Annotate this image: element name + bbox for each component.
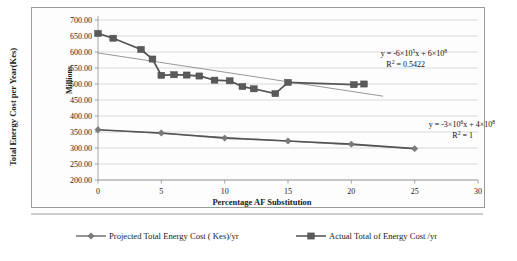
equation-annotations: y = -6×105x + 6×108R2 = 0.5422y = -3×106… (381, 48, 496, 140)
data-point-marker (285, 138, 291, 144)
y-axis-title: Total Energy Cost per Year(Kes) (8, 48, 18, 166)
y-tick-label: 600.00 (70, 48, 92, 57)
data-point-marker (183, 72, 190, 78)
y-tick-label: 400.00 (70, 112, 92, 121)
data-point-marker (272, 91, 279, 97)
data-point-marker (95, 30, 102, 36)
y-tick-label: 350.00 (70, 128, 92, 137)
data-point-marker (350, 82, 357, 88)
x-axis-title: Percentage AF Substitution (212, 197, 311, 207)
x-tick-label: 20 (347, 187, 355, 196)
grid-lines (98, 20, 478, 180)
x-tick-label: 25 (411, 187, 419, 196)
data-point-marker (110, 35, 117, 41)
data-point-marker (361, 81, 368, 87)
y-axis-tick-labels: 200.00250.00300.00350.00400.00450.00500.… (70, 16, 92, 185)
data-point-marker (158, 72, 165, 78)
data-point-marker (196, 73, 203, 79)
legend-marker-square (308, 233, 315, 239)
y-tick-label: 700.00 (70, 16, 92, 25)
legend-label[interactable]: Projected Total Energy Cost ( Kes)/yr (109, 231, 239, 241)
y-tick-label: 200.00 (70, 176, 92, 185)
x-tick-label: 30 (474, 187, 482, 196)
trendline-equation: y = -6×105x + 6×108 (381, 48, 448, 58)
y-tick-label: 250.00 (70, 160, 92, 169)
chart-canvas: 200.00250.00300.00350.00400.00450.00500.… (0, 0, 517, 261)
data-point-marker (158, 130, 164, 136)
x-tick-label: 0 (96, 187, 100, 196)
trendline-equation: y = -3×106x + 4×108 (429, 119, 496, 129)
data-point-marker (211, 77, 218, 83)
y-tick-label: 450.00 (70, 96, 92, 105)
series-line (98, 130, 415, 149)
series-line (98, 33, 364, 93)
trendlines (98, 53, 415, 149)
data-point-marker (226, 78, 233, 84)
data-series (95, 30, 418, 152)
x-tick-label: 10 (221, 187, 229, 196)
trendline-r-squared: R2 = 0.5422 (386, 59, 425, 69)
x-axis-tick-labels: 051015202530 (96, 187, 482, 196)
data-point-marker (411, 145, 417, 151)
chart-figure: 200.00250.00300.00350.00400.00450.00500.… (0, 0, 517, 261)
data-point-marker (348, 141, 354, 147)
y-tick-label: 300.00 (70, 144, 92, 153)
x-tick-label: 5 (159, 187, 163, 196)
data-point-marker (239, 83, 246, 89)
legend-label[interactable]: Actual Total of Energy Cost /yr (329, 231, 437, 241)
data-point-marker (285, 79, 292, 85)
data-point-marker (171, 72, 178, 78)
data-point-marker (250, 86, 257, 92)
trendline-r-squared: R2 = 1 (452, 130, 473, 140)
data-point-marker (221, 135, 227, 141)
y-axis-unit-label: Millions (65, 66, 74, 94)
chart-legend[interactable]: Projected Total Energy Cost ( Kes)/yrAct… (76, 231, 437, 241)
y-tick-label: 650.00 (70, 32, 92, 41)
data-point-marker (138, 46, 145, 52)
x-tick-label: 15 (284, 187, 292, 196)
data-point-marker (149, 56, 156, 62)
legend-marker-diamond (88, 233, 94, 239)
